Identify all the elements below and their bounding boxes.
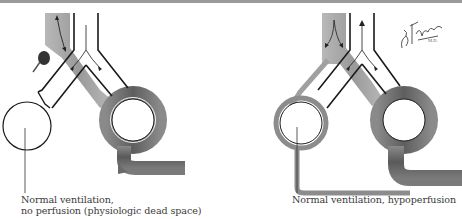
caption-right-line1: Normal ventilation, hypoperfusion (292, 194, 456, 205)
caption-left: Normal ventilation, no perfusion (physio… (21, 194, 201, 216)
caption-left-line2: no perfusion (physiologic dead space) (21, 205, 201, 216)
left-panel (3, 13, 185, 193)
pulmonary-artery-right (290, 13, 384, 108)
netter-signature: M.D. (398, 14, 446, 54)
caption-right: Normal ventilation, hypoperfusion (292, 194, 456, 205)
alveolus-hypoperfused (280, 102, 322, 144)
alveolus-perfused-right (383, 99, 425, 141)
vq-diagram (0, 0, 462, 219)
alveolus-perfused-left (112, 99, 154, 141)
alveolus-unperfused (3, 102, 51, 150)
caption-left-line1: Normal ventilation, (21, 194, 201, 205)
pulmonary-artery-left (33, 13, 112, 108)
svg-text:M.D.: M.D. (428, 38, 438, 43)
